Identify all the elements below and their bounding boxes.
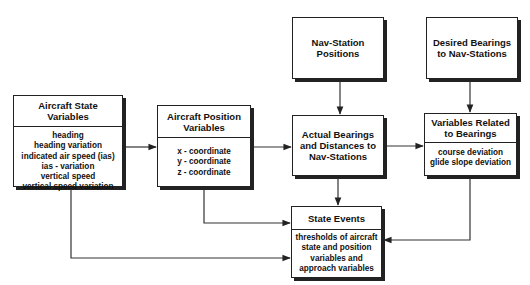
- node-variables-related-to-bearings: Variables Related to Bearings course dev…: [424, 113, 517, 176]
- node-aircraft-state-variables: Aircraft State Variables heading heading…: [13, 95, 123, 187]
- node-items: x - coordinate y - coordinate z - coordi…: [158, 137, 250, 182]
- title-line: State Events: [294, 213, 379, 224]
- node-title: Aircraft State Variables: [14, 96, 122, 126]
- description-line: variables and: [292, 254, 381, 264]
- node-actual-bearings-distances: Actual Bearings and Distances to Nav-Sta…: [292, 115, 384, 176]
- title-line: Nav-Station: [312, 37, 365, 48]
- title-line: Nav-Stations: [309, 151, 367, 162]
- title-line: Desired Bearings: [433, 37, 511, 48]
- node-title: State Events: [292, 207, 381, 229]
- title-line: Aircraft Position: [160, 111, 248, 122]
- item-ias-variation: ias - variation: [14, 162, 122, 172]
- node-aircraft-position-variables: Aircraft Position Variables x - coordina…: [157, 105, 251, 187]
- title-line: Positions: [317, 48, 360, 59]
- node-desired-bearings: Desired Bearings to Nav-Stations: [426, 17, 518, 79]
- description-line: thresholds of aircraft: [292, 233, 381, 243]
- node-title: Desired Bearings to Nav-Stations: [427, 18, 517, 78]
- item-course-deviation: course deviation: [425, 148, 516, 158]
- node-nav-station-positions: Nav-Station Positions: [292, 17, 384, 79]
- item-heading-variation: heading variation: [14, 141, 122, 151]
- item-glide-slope-deviation: glide slope deviation: [425, 158, 516, 168]
- edge-position-to-events: [204, 189, 290, 223]
- node-items: course deviation glide slope deviation: [425, 142, 516, 172]
- item-ias: indicated air speed (ias): [14, 152, 122, 162]
- edge-related-to-events: [384, 178, 470, 240]
- item-vertical-speed: vertical speed: [14, 172, 122, 182]
- title-line: to Nav-Stations: [437, 48, 507, 59]
- title-line: Variables: [16, 111, 120, 122]
- node-description: thresholds of aircraft state and positio…: [292, 229, 381, 276]
- node-title: Nav-Station Positions: [293, 18, 383, 78]
- node-title: Aircraft Position Variables: [158, 106, 250, 137]
- item-heading: heading: [14, 131, 122, 141]
- title-line: Variables: [160, 122, 248, 133]
- item-z: z - coordinate: [160, 168, 248, 178]
- item-x: x - coordinate: [160, 147, 248, 157]
- node-state-events: State Events thresholds of aircraft stat…: [291, 206, 382, 278]
- item-y: y - coordinate: [160, 157, 248, 167]
- title-line: Variables Related: [426, 117, 515, 128]
- node-items: heading heading variation indicated air …: [14, 126, 122, 196]
- title-line: to Bearings: [426, 128, 515, 139]
- description-line: approach variables: [292, 264, 381, 274]
- item-vertical-speed-variation: vertical speed variation: [14, 182, 122, 192]
- title-line: and Distances to: [300, 140, 376, 151]
- node-title: Variables Related to Bearings: [425, 114, 516, 142]
- title-line: Actual Bearings: [302, 129, 374, 140]
- title-line: Aircraft State: [16, 100, 120, 111]
- node-title: Actual Bearings and Distances to Nav-Sta…: [293, 116, 383, 175]
- description-line: state and position: [292, 243, 381, 253]
